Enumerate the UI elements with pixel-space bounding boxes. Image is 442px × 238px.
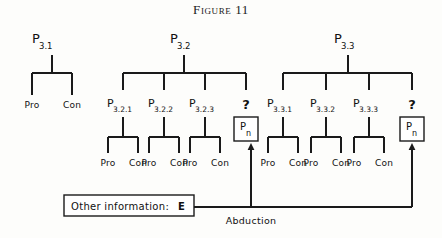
abduction-label: Abduction bbox=[226, 215, 277, 226]
leaf-con-333: Con bbox=[375, 158, 393, 168]
node-subscript-p331: 3.3.1 bbox=[273, 105, 292, 114]
pn-box-subscript-32: n bbox=[246, 129, 251, 138]
node-subscript-p332: 3.3.2 bbox=[316, 105, 335, 114]
leaf-pro-333: Pro bbox=[347, 158, 362, 168]
node-subscript-p31: 3.1 bbox=[39, 41, 53, 51]
leaf-pro-322: Pro bbox=[142, 158, 157, 168]
leaf-pro-331: Pro bbox=[261, 158, 276, 168]
argument-tree-diagram: P 3.1 Pro Con P 3.2 P 3.2.1 P bbox=[0, 0, 442, 238]
tree-3-1: P 3.1 Pro Con bbox=[25, 31, 82, 110]
node-subscript-p322: 3.2.2 bbox=[154, 105, 173, 114]
leaf-pro-323: Pro bbox=[183, 158, 198, 168]
pn-box-subscript-33: n bbox=[412, 129, 417, 138]
leaf-pro-31: Pro bbox=[25, 100, 40, 110]
leaf-con-323: Con bbox=[211, 158, 229, 168]
abduction-connector: Abduction bbox=[194, 143, 415, 226]
arrowhead-right bbox=[409, 143, 416, 150]
evidence-box: Other information: E bbox=[64, 195, 194, 216]
node-subscript-p321: 3.2.1 bbox=[113, 105, 132, 114]
leaf-pro-332: Pro bbox=[304, 158, 319, 168]
figure-container: Figure 11 P 3.1 Pro Con P 3.2 bbox=[0, 0, 442, 238]
leaf-con-31: Con bbox=[63, 100, 81, 110]
node-subscript-p32: 3.2 bbox=[177, 41, 191, 51]
evidence-box-text: Other information: bbox=[71, 201, 169, 212]
evidence-box-symbol: E bbox=[178, 201, 185, 212]
node-unknown-32: ? bbox=[242, 97, 250, 112]
node-subscript-p33: 3.3 bbox=[341, 41, 355, 51]
node-subscript-p323: 3.2.3 bbox=[195, 105, 214, 114]
tree-3-2: P 3.2 P 3.2.1 P 3.2.2 P 3.2.3 ? Pro Con bbox=[101, 31, 258, 168]
leaf-pro-321: Pro bbox=[101, 158, 116, 168]
tree-3-3: P 3.3 P 3.3.1 P 3.3.2 P 3.3.3 ? Pro Con bbox=[261, 31, 424, 168]
arrowhead-left bbox=[248, 143, 255, 150]
node-unknown-33: ? bbox=[408, 97, 416, 112]
node-subscript-p333: 3.3.3 bbox=[359, 105, 378, 114]
